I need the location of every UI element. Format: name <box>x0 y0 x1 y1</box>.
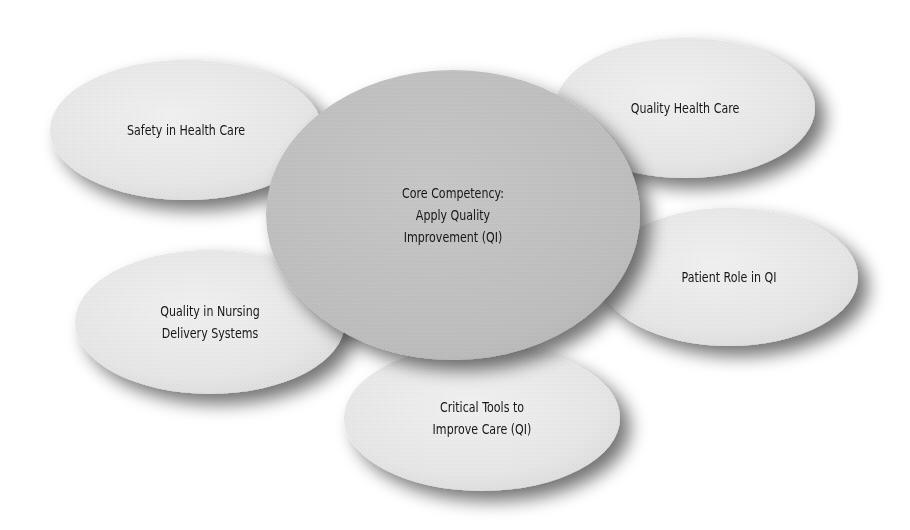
node-nursing-delivery-label-line: Delivery Systems <box>160 322 259 344</box>
node-quality-health-care-label-line: Quality Health Care <box>631 97 740 119</box>
node-core-label-line: Core Competency: <box>402 182 504 204</box>
node-patient-role-label: Patient Role in QI <box>671 266 787 288</box>
node-critical-tools-label-line: Critical Tools to <box>433 396 532 418</box>
node-core-label-line: Improvement (QI) <box>402 226 504 248</box>
node-nursing-delivery-label: Quality in NursingDelivery Systems <box>149 300 270 344</box>
node-core-label-line: Apply Quality <box>402 204 504 226</box>
node-patient-role-label-line: Patient Role in QI <box>681 266 776 288</box>
node-quality-health-care-label: Quality Health Care <box>619 97 751 119</box>
node-critical-tools-label: Critical Tools toImprove Care (QI) <box>422 396 543 440</box>
node-core-label: Core Competency:Apply QualityImprovement… <box>391 182 515 248</box>
concept-diagram <box>0 0 910 530</box>
node-nursing-delivery-label-line: Quality in Nursing <box>160 300 259 322</box>
node-safety-label: Safety in Health Care <box>114 119 258 141</box>
node-safety-label-line: Safety in Health Care <box>127 119 245 141</box>
node-critical-tools-label-line: Improve Care (QI) <box>433 418 532 440</box>
